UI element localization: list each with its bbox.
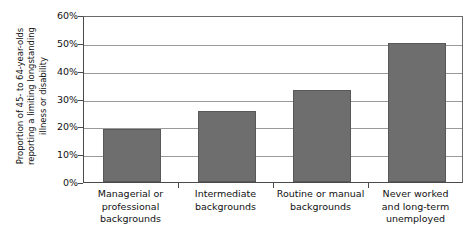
y-tick-label: 50% [44, 39, 78, 49]
bar [198, 111, 256, 182]
bar [388, 43, 446, 182]
y-tick-label: 60% [44, 11, 78, 21]
x-tick-label: Never worked and long-term unemployed [368, 188, 463, 226]
y-axis-tick-labels: 0%10%20%30%40%50%60% [44, 0, 78, 231]
y-tick-label: 40% [44, 67, 78, 77]
y-tick-label: 0% [44, 178, 78, 188]
bar-chart-figure: Proportion of 45- to 64-year-olds report… [0, 0, 476, 231]
bar [293, 90, 351, 182]
x-tick-label: Managerial or professional backgrounds [83, 188, 178, 226]
bars-group [84, 17, 462, 182]
y-tick-mark [78, 44, 83, 45]
x-axis-tick-labels: Managerial or professional backgroundsIn… [83, 188, 463, 231]
y-tick-mark [78, 100, 83, 101]
y-tick-label: 30% [44, 95, 78, 105]
plot-area [83, 16, 463, 183]
bar [103, 129, 161, 182]
x-tick-label: Routine or manual backgrounds [273, 188, 368, 213]
x-tick-label: Intermediate backgrounds [178, 188, 273, 213]
y-tick-mark [78, 183, 83, 184]
y-tick-mark [78, 155, 83, 156]
y-tick-label: 10% [44, 150, 78, 160]
y-tick-mark [78, 72, 83, 73]
y-tick-label: 20% [44, 122, 78, 132]
y-tick-mark [78, 16, 83, 17]
y-tick-mark [78, 127, 83, 128]
